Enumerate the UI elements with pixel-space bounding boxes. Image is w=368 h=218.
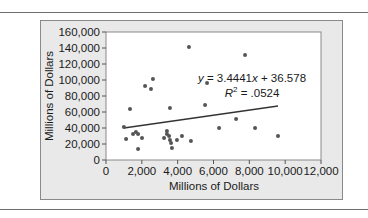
y-tick-label: 80,000 [65, 90, 100, 102]
data-point [122, 125, 126, 129]
y-axis-title: Millions of Dollars [43, 51, 55, 141]
y-axis: 020,00040,00060,00080,000100,000120,0001… [58, 26, 106, 166]
data-point [234, 117, 238, 121]
data-point [180, 134, 184, 138]
data-point [167, 134, 171, 138]
y-tick-label: 20,000 [65, 138, 100, 150]
y-tick-label: 100,000 [58, 74, 100, 86]
data-point [136, 147, 140, 151]
y-tick-label: 0 [94, 154, 100, 166]
x-tick-label: 0 [103, 165, 109, 177]
scatter-chart: 020,00040,00060,00080,000100,000120,0001… [0, 0, 368, 218]
x-tick-label: 8,000 [235, 165, 264, 177]
data-point [187, 45, 191, 49]
data-point [175, 138, 179, 142]
x-axis: 02,0004,0006,0008,00010,00012,000 [103, 160, 339, 177]
data-point [168, 106, 172, 110]
x-tick-label: 4,000 [163, 165, 192, 177]
x-tick-label: 10,000 [268, 165, 303, 177]
regression-equation: y = 3.4441x + 36.578 [197, 72, 306, 84]
data-point [149, 87, 153, 91]
data-point [203, 103, 207, 107]
data-point [128, 107, 132, 111]
data-point [169, 141, 173, 145]
plot-area [106, 32, 321, 160]
x-tick-label: 6,000 [199, 165, 228, 177]
y-tick-label: 40,000 [65, 122, 100, 134]
data-point [162, 136, 166, 140]
data-point [136, 132, 140, 136]
y-tick-label: 160,000 [58, 26, 100, 38]
data-point [217, 126, 221, 130]
x-axis-title: Millions of Dollars [169, 180, 259, 192]
x-tick-label: 12,000 [303, 165, 338, 177]
data-point [189, 139, 193, 143]
data-point [143, 84, 147, 88]
y-tick-label: 60,000 [65, 106, 100, 118]
data-point [151, 77, 155, 81]
data-point [253, 126, 257, 130]
data-point [124, 137, 128, 141]
x-tick-label: 2,000 [127, 165, 156, 177]
data-point [140, 136, 144, 140]
data-point [243, 53, 247, 57]
y-tick-label: 120,000 [58, 58, 100, 70]
bottom-rule [0, 209, 368, 210]
data-point [170, 146, 174, 150]
y-tick-label: 140,000 [58, 42, 100, 54]
data-point [165, 129, 169, 133]
r-squared-label: R2 = .0524 [225, 85, 280, 99]
data-point [276, 134, 280, 138]
